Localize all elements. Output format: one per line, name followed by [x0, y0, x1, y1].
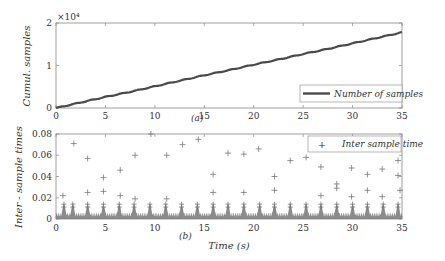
x-tick-label: 20 [248, 111, 260, 121]
x-tick-label: 35 [396, 223, 408, 233]
x-tick-label: 35 [396, 111, 408, 121]
panel-b-y-axis-label: Inter - sample times [13, 126, 24, 229]
y-tick-label: 0.04 [32, 172, 52, 182]
x-tick-label: 5 [103, 111, 109, 121]
y-tick-label: 0 [46, 214, 52, 224]
x-tick-label: 15 [199, 223, 211, 233]
panel-b-legend: + Inter sample time [308, 136, 423, 152]
panel-b-label: (b) [179, 231, 192, 241]
x-tick-label: 5 [103, 223, 109, 233]
x-tick-label: 20 [248, 223, 260, 233]
panel-a-legend: Number of samples [300, 85, 424, 102]
y-tick-label: 2 [46, 18, 52, 28]
y-tick-label: 0.02 [32, 193, 52, 203]
figure: 05101520253035 012 ×10⁴ Number of sample… [0, 0, 445, 261]
x-tick-label: 0 [53, 223, 59, 233]
panel-a-label: (a) [191, 113, 204, 123]
panel-a-exponent-label: ×10⁴ [57, 12, 80, 22]
y-tick-label: 0 [46, 103, 52, 113]
y-tick-label: 0.06 [32, 150, 52, 160]
panel-b-legend-plus-icon: + [318, 139, 326, 150]
y-tick-label: 1 [46, 61, 52, 71]
panel-b-inter-sample-times: 05101520253035 00.020.040.060.08 + Inter… [13, 126, 423, 251]
x-tick-label: 30 [347, 223, 359, 233]
y-tick-label: 0.08 [32, 129, 52, 139]
panel-b-legend-label: Inter sample time [341, 139, 423, 149]
panel-a-cumulative-samples: 05101520253035 012 ×10⁴ Number of sample… [21, 12, 424, 123]
x-tick-label: 30 [347, 111, 359, 121]
x-tick-label: 25 [297, 111, 309, 121]
panel-a-legend-label: Number of samples [333, 89, 424, 99]
x-axis-label: Time (s) [208, 240, 249, 251]
x-tick-label: 10 [149, 223, 161, 233]
panel-a-y-axis-label: Cumul. samples [21, 26, 32, 107]
x-tick-label: 0 [53, 111, 59, 121]
x-tick-label: 10 [149, 111, 161, 121]
x-tick-label: 25 [297, 223, 309, 233]
